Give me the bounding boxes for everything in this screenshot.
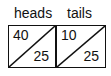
tails-cell: 10 25	[56, 25, 106, 68]
tails-bottom-value: 25	[83, 49, 99, 64]
heads-cell: 40 25	[8, 25, 56, 68]
tails-top-value: 10	[61, 28, 77, 43]
heads-bottom-value: 25	[33, 49, 49, 64]
heads-label: heads	[14, 5, 52, 21]
tails-label: tails	[67, 5, 92, 21]
heads-top-value: 40	[13, 28, 29, 43]
